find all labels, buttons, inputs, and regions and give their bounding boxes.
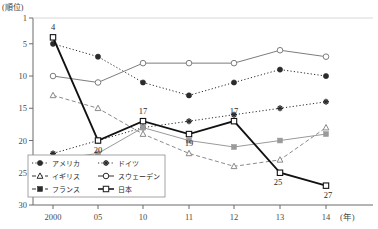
data-label-japan: 27 [324,190,333,200]
x-axis-tick-label: 13 [276,212,285,222]
marker-open-circle [186,60,192,66]
marker-filled-circle [140,80,145,85]
marker-open-square [277,170,282,175]
marker-filled-circle [231,80,236,85]
marker-filled-circle [37,160,42,165]
data-label-japan: 4 [51,22,56,32]
marker-filled-cross [323,99,329,105]
x-axis-tick-label: 10 [139,212,148,222]
y-axis-tick-label: 20 [19,136,28,146]
x-axis-tick-label: 2000 [45,212,62,222]
legend-label: アメリカ [52,160,80,167]
marker-filled-square [38,187,43,192]
x-axis-tick-label: 11 [185,212,193,222]
marker-filled-cross [186,118,192,124]
marker-open-circle [277,47,283,53]
legend-label: スウェーデン [118,172,160,181]
x-axis-tick-label: 14 [322,212,331,222]
marker-filled-square [141,125,146,130]
marker-filled-square [232,145,237,150]
marker-filled-cross [103,160,109,166]
legend-label: ドイツ [118,160,139,167]
series-4 [50,47,329,85]
marker-filled-cross [277,105,283,111]
marker-filled-circle [95,54,100,59]
marker-open-square [50,35,55,40]
marker-open-circle [50,73,56,79]
legend-label: フランス [52,186,80,193]
series-1 [50,41,328,98]
data-label-japan: 17 [139,106,148,116]
data-label-japan: 17 [230,106,239,116]
y-axis-tick-label: 10 [19,71,28,81]
marker-open-circle [140,60,146,66]
legend-label: 日本 [118,185,132,194]
y-axis-tick-label: 25 [19,168,28,178]
x-axis-unit-label: (年) [340,212,355,222]
y-axis-tick-label: 15 [19,103,28,113]
marker-open-circle [95,80,101,86]
marker-open-triangle [50,92,56,97]
marker-open-triangle [323,125,329,130]
data-label-japan: 20 [94,145,103,155]
marker-open-square [323,183,328,188]
marker-open-circle [103,173,109,179]
marker-open-square [103,186,108,191]
marker-open-triangle [95,105,101,110]
legend-label: イギリス [52,173,80,180]
y-axis-tick-label: 1 [23,13,27,23]
marker-open-circle [323,54,329,60]
chart-container: (順位)1510152025302000051011121314(年)42017… [0,0,378,229]
x-axis-tick-label: 05 [94,212,103,222]
marker-open-triangle [277,157,283,162]
marker-open-square [186,131,191,136]
y-axis-tick-label: 5 [23,39,27,49]
marker-open-circle [231,60,237,66]
marker-open-square [140,118,145,123]
y-axis-tick-label: 30 [19,200,28,210]
y-axis-unit-label: (順位) [2,2,24,12]
series-line [53,44,326,96]
marker-filled-circle [323,73,328,78]
marker-open-square [231,118,236,123]
marker-filled-square [278,138,283,143]
marker-filled-circle [277,67,282,72]
marker-filled-square [324,132,329,137]
marker-open-triangle [140,131,146,136]
marker-open-square [95,138,100,143]
rank-line-chart: (順位)1510152025302000051011121314(年)42017… [0,0,378,229]
data-label-japan: 25 [274,177,283,187]
data-label-japan: 19 [185,138,194,148]
x-axis-tick-label: 12 [230,212,239,222]
marker-filled-circle [186,93,191,98]
